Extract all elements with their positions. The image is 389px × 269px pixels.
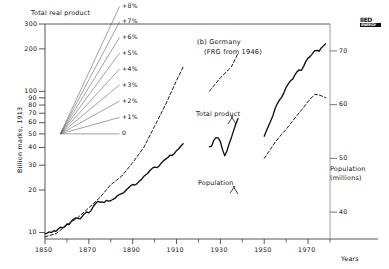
- leader-total-product: [231, 116, 236, 124]
- x-tick-label-1850: 1850: [35, 247, 52, 253]
- y-tick-label-90: 90: [28, 95, 37, 101]
- fan-label-plus1pct: +1%: [122, 114, 138, 120]
- right-tick-label-60: 60: [339, 101, 348, 107]
- right-tick-label-70: 70: [339, 48, 348, 54]
- y-tick-label-50: 50: [28, 131, 37, 137]
- x-tick-label-1970: 1970: [298, 247, 315, 253]
- y-tick-label-200: 200: [24, 46, 37, 52]
- fan-label-plus5pct: +5%: [122, 50, 138, 56]
- fan-label-plus6pct: +6%: [122, 34, 138, 40]
- fan-label-plus3pct: +3%: [122, 82, 138, 88]
- leader-population-2: [230, 186, 235, 193]
- fan-label-plus4pct: +4%: [122, 66, 138, 72]
- series-1-segment-3: [264, 44, 325, 137]
- series-2-segment-3: [264, 94, 325, 158]
- fan-label-plus7pct: +7%: [122, 18, 138, 24]
- y-tick-label-20: 20: [28, 187, 37, 193]
- y-tick-label-70: 70: [28, 110, 37, 116]
- y-tick-label-40: 40: [28, 144, 37, 150]
- y-tick-label-80: 80: [28, 102, 37, 108]
- y-tick-label-60: 60: [28, 119, 37, 125]
- series-1-segment-1: [45, 144, 183, 234]
- x-tick-label-1910: 1910: [167, 247, 184, 253]
- x-tick-label-1930: 1930: [210, 247, 227, 253]
- right-tick-label-40: 40: [339, 209, 348, 215]
- y-tick-label-300: 300: [24, 21, 37, 27]
- fan-label-plus2pct: +2%: [122, 98, 138, 104]
- y-tick-label-100: 100: [24, 88, 37, 94]
- fan-label-plus8pct: +8%: [122, 3, 138, 9]
- leader-total-product-2: [228, 116, 233, 124]
- x-tick-label-1870: 1870: [79, 247, 96, 253]
- series-2-segment-2: [209, 54, 238, 92]
- x-tick-label-1890: 1890: [123, 247, 140, 253]
- series-1-segment-2: [209, 119, 238, 156]
- y-tick-label-10: 10: [28, 229, 37, 235]
- fan-label-0: 0: [122, 130, 126, 136]
- plot-area: [0, 0, 389, 269]
- series-2-segment-1: [45, 67, 183, 237]
- y-tick-label-30: 30: [28, 162, 37, 168]
- right-tick-label-50: 50: [339, 155, 348, 161]
- chart-root: Total real product Billion marks, 1913 (…: [0, 0, 389, 269]
- x-tick-label-1950: 1950: [254, 247, 271, 253]
